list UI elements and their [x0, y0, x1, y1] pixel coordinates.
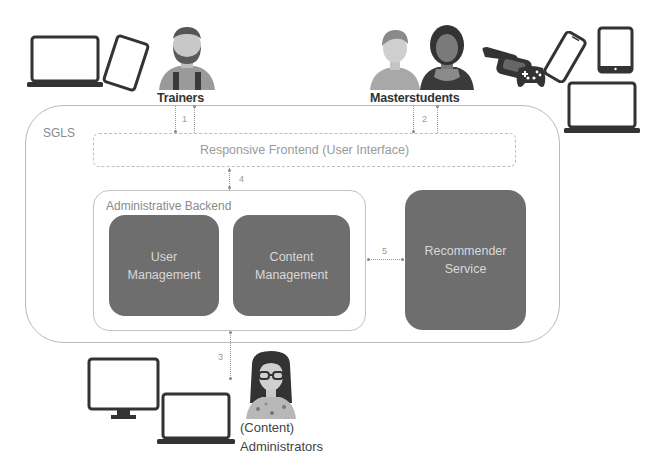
link-4-label: 4 [239, 174, 244, 184]
link-1-down [175, 106, 176, 133]
arrow-head-icon [436, 105, 439, 108]
arrow-head-icon [412, 130, 415, 133]
module-line1: User [151, 248, 177, 266]
tablet-icon [100, 33, 152, 93]
arrow-head-icon [228, 186, 231, 189]
student-avatar-icon [418, 21, 476, 90]
arrow-head-icon [228, 169, 231, 172]
student-avatar-icon [368, 26, 422, 90]
link-5-label: 5 [382, 246, 387, 256]
trainers-label: Trainers [157, 91, 204, 105]
arrow-head-icon [229, 377, 232, 380]
frontend-label: Responsive Frontend (User Interface) [200, 143, 409, 157]
link-5-line [367, 259, 404, 260]
link-2-down [413, 106, 414, 133]
arrow-head-icon [401, 258, 404, 261]
backend-label: Administrative Backend [106, 199, 231, 213]
trainer-avatar-icon [155, 24, 219, 90]
arrow-head-icon [367, 258, 370, 261]
link-2-label: 2 [422, 114, 427, 124]
module-line2: Management [255, 266, 328, 284]
administrators-label-line2: Administrators [240, 437, 323, 456]
arrow-head-icon [174, 130, 177, 133]
content-management-module: Content Management [233, 215, 350, 316]
module-line2: Service [445, 260, 487, 278]
link-3-label: 3 [218, 352, 223, 362]
laptop-icon [27, 35, 105, 91]
administrators-label-line1: (Content) [240, 418, 323, 437]
smartphone-icon [542, 31, 588, 83]
laptop-icon [564, 81, 642, 136]
user-management-module: User Management [109, 215, 219, 316]
laptop-icon [157, 392, 237, 448]
module-line1: Recommender [425, 242, 507, 260]
sgls-label: SGLS [43, 126, 75, 140]
module-line1: Content [270, 248, 314, 266]
link-1-label: 1 [182, 114, 187, 124]
arrow-head-icon [229, 331, 232, 334]
masterstudents-label: Masterstudents [370, 91, 460, 105]
administrator-avatar-icon [244, 349, 298, 419]
administrators-label: (Content) Administrators [240, 418, 323, 456]
frontend-box: Responsive Frontend (User Interface) [93, 133, 516, 167]
arrow-head-icon [193, 105, 196, 108]
link-2-up [437, 106, 438, 133]
link-3-line [230, 332, 231, 378]
monitor-icon [87, 357, 160, 421]
tablet-icon [597, 26, 634, 74]
module-line2: Management [128, 266, 201, 284]
link-1-up [194, 106, 195, 133]
recommender-service-module: Recommender Service [405, 190, 526, 330]
